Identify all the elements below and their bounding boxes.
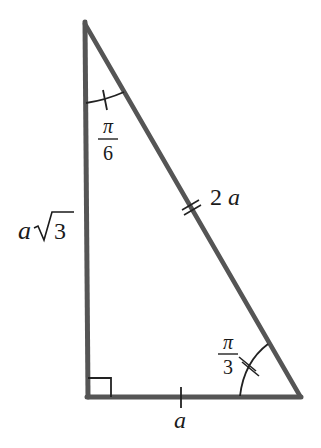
- vertical-label-radicand: 3: [54, 218, 66, 244]
- side-vertical: [85, 22, 88, 397]
- angle-top-denominator: 6: [103, 142, 113, 164]
- right-angle-marker: [88, 378, 111, 397]
- angle-br-numerator: π: [223, 331, 234, 353]
- vertical-label-coef: a: [18, 216, 31, 245]
- hypotenuse-label: 2 a: [210, 184, 240, 210]
- angle-top-numerator: π: [103, 115, 114, 137]
- base-label: a: [174, 407, 186, 433]
- angle-br-denominator: 3: [223, 356, 233, 378]
- triangle-diagram: π 6 π 3 2 a a 3 a: [0, 0, 321, 448]
- hypotenuse-label-text: 2: [210, 184, 222, 210]
